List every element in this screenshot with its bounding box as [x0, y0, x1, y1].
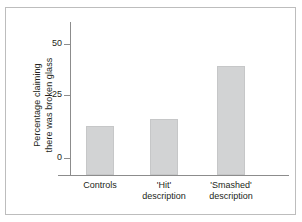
bar-smashed-description: [217, 66, 245, 175]
plot-area: Percentage claiming there was broken gla…: [0, 0, 302, 222]
y-tick-label-0-wrap: 0: [30, 153, 62, 163]
y-tick-mark-25: [64, 95, 71, 96]
y-tick-label-50: 50: [30, 39, 62, 48]
bar-hit-description: [150, 119, 178, 175]
bar-controls: [86, 126, 114, 175]
y-tick-mark-0: [64, 158, 71, 159]
y-tick-label-25: 25: [30, 90, 62, 99]
y-tick-label-25-wrap: 25: [30, 90, 62, 100]
y-tick-mark-50: [64, 44, 71, 45]
figure-container: Percentage claiming there was broken gla…: [0, 0, 302, 222]
y-tick-label-50-wrap: 50: [30, 39, 62, 49]
x-axis-line: [58, 175, 289, 176]
x-tick-label-smashed: 'Smashed' description: [191, 180, 271, 202]
y-tick-label-0: 0: [30, 153, 62, 162]
x-tick-label-smashed-line2: description: [191, 191, 271, 202]
x-tick-label-smashed-line1: 'Smashed': [191, 180, 271, 191]
